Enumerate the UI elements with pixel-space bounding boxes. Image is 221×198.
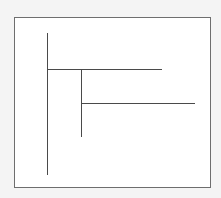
root-vertical-line [47,33,48,175]
branch-2-horizontal-line [81,103,195,104]
branch-1-horizontal-line [47,69,162,70]
